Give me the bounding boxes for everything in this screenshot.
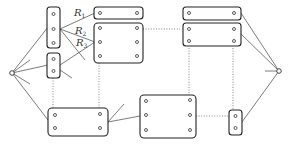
block-b xyxy=(47,53,60,78)
block-e xyxy=(183,7,241,20)
block-c xyxy=(94,7,143,19)
label-r1: R1 xyxy=(73,7,85,19)
label-r2: R2 xyxy=(74,25,87,37)
block-a xyxy=(47,7,60,48)
sink-node xyxy=(277,69,282,74)
sink-edges xyxy=(241,13,279,122)
block-i xyxy=(229,110,242,135)
block-g xyxy=(48,108,108,136)
bottom-edges xyxy=(108,104,140,122)
block-h xyxy=(140,95,196,138)
network-diagram: R1 R2 R3 xyxy=(0,0,288,144)
source-edges xyxy=(12,27,48,120)
block-f xyxy=(183,23,241,46)
source-node xyxy=(10,71,15,76)
block-d xyxy=(94,23,143,63)
